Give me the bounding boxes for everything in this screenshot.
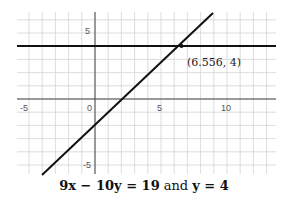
- intersection-point: [180, 44, 184, 48]
- chart-caption: 9x − 10y = 19andy = 4: [0, 178, 288, 193]
- x-tick-10: 10: [221, 103, 231, 113]
- intersection-label: (6.556, 4): [187, 56, 241, 69]
- x-tick-5: 5: [157, 103, 162, 113]
- caption-equation-2: y = 4: [192, 178, 229, 193]
- caption-equation-1: 9x − 10y = 19: [59, 178, 159, 193]
- grid-lines: [17, 12, 276, 174]
- x-tick-neg5: -5: [20, 103, 28, 113]
- caption-and: and: [164, 178, 188, 193]
- x-tick-0: 0: [87, 103, 92, 113]
- y-tick-5: 5: [85, 26, 90, 36]
- plot-area: -5 0 5 10 5 -5 (6.556, 4): [0, 0, 288, 201]
- chart: -5 0 5 10 5 -5 (6.556, 4) 9x − 10y = 19a…: [0, 0, 288, 201]
- y-tick-neg5: -5: [83, 160, 91, 170]
